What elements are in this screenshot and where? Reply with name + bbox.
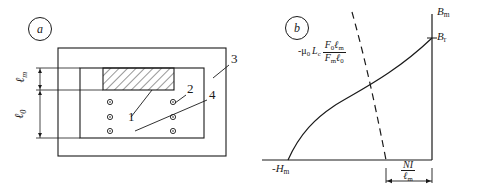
hm-subscript: m: [284, 167, 290, 176]
lm-symbol: ℓ: [13, 78, 27, 83]
ni-symbol: NI: [403, 159, 413, 170]
axis-label-bm: Bm: [437, 6, 450, 19]
panel-tag-a: a: [28, 17, 52, 41]
dim-arrow-ni-right: [426, 179, 431, 183]
callout-1: 1: [128, 110, 135, 123]
load-line-annotation: -μ0 Lc F0ℓm Fmℓ0: [298, 40, 346, 64]
lm-denominator: ℓm: [401, 171, 415, 183]
bottom-dimension-label: NI ℓm: [401, 160, 415, 183]
callout-2: 2: [187, 82, 194, 95]
winding-symbols-right: [170, 99, 175, 133]
lm-num-subscript: m: [338, 44, 343, 51]
br-subscript: r: [444, 35, 447, 44]
magnet-block: [103, 68, 174, 90]
panel-tag-a-label: a: [37, 22, 43, 37]
axis-label-hm: -Hm: [272, 163, 289, 176]
ni-lm-fraction: NI ℓm: [401, 160, 415, 183]
dim-arrow-ni-left: [387, 179, 392, 183]
fraction-denominator: Fmℓ0: [323, 53, 346, 65]
lm-den-subscript: m: [407, 175, 412, 182]
outer-core-rect: [58, 48, 226, 156]
callout-3: 3: [231, 52, 238, 65]
figure-container: a ℓm ℓ0 1 2 3 4 b Bm Br -Hm -μ0 Lc F0ℓm …: [0, 0, 481, 193]
leader-line-4: [135, 100, 207, 131]
br-symbol: B: [437, 30, 444, 42]
winding-symbols-left: [107, 99, 112, 133]
mu-symbol: -μ: [298, 45, 307, 56]
l0-subscript: 0: [19, 110, 28, 114]
callout-4: 4: [209, 88, 216, 101]
l0-den-subscript: 0: [340, 57, 343, 64]
panel-tag-b-label: b: [294, 21, 300, 36]
mu-subscript: 0: [307, 50, 310, 57]
annotation-coef: Lc: [312, 46, 321, 58]
panel-tag-b: b: [285, 16, 309, 40]
lc-subscript: c: [318, 50, 321, 57]
dim-arrow-l0-top: [38, 91, 42, 95]
panel-b-drawing: [262, 12, 437, 183]
l0-symbol: ℓ: [12, 114, 26, 119]
dim-arrow-lm-bot: [38, 85, 42, 89]
hm-symbol: -H: [272, 162, 284, 174]
dim-arrow-l0-bot: [38, 133, 42, 137]
axis-label-br: Br: [437, 31, 446, 44]
lm-subscript: m: [20, 72, 29, 78]
annotation-fraction: F0ℓm Fmℓ0: [323, 40, 346, 64]
bm-symbol: B: [437, 5, 444, 17]
dimension-label-l0: ℓ0: [13, 110, 27, 119]
leader-line-3: [213, 65, 229, 78]
dim-arrow-lm-top: [38, 69, 42, 73]
dimension-label-lm: ℓm: [14, 72, 28, 83]
annotation-prefix: -μ0: [298, 46, 310, 58]
panel-a-drawing: [36, 48, 229, 156]
leader-line-2: [175, 95, 186, 103]
bm-subscript: m: [444, 10, 450, 19]
